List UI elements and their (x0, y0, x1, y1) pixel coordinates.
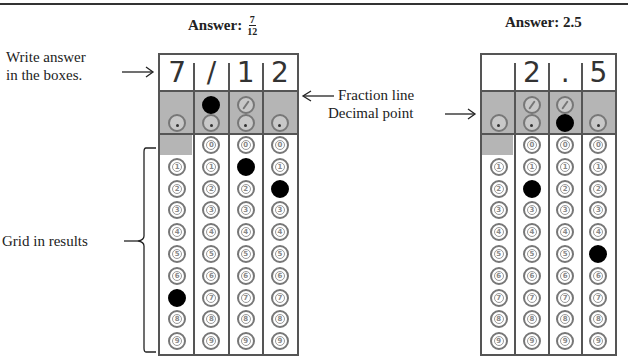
annotation-arrows (0, 0, 628, 362)
brace-grid-results (138, 148, 156, 352)
